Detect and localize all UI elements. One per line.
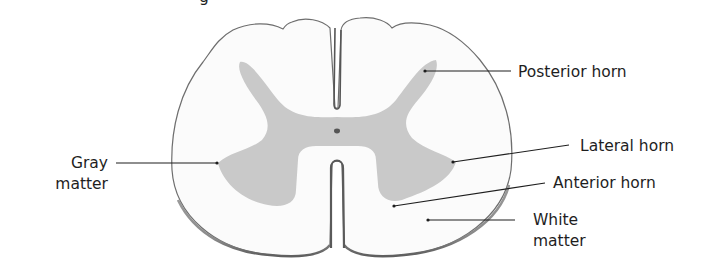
central-canal xyxy=(334,129,340,134)
white-matter-label-line1: White xyxy=(533,211,578,229)
spinal-cord-cross-section-diagram: g Posterior horn Gray matter Lateral hor… xyxy=(0,0,705,277)
lateral-horn-label: Lateral horn xyxy=(580,137,674,155)
title-fragment: g xyxy=(199,0,209,6)
white-matter-label-line2: matter xyxy=(533,232,586,250)
gray-matter-label-line1: Gray xyxy=(71,154,108,172)
anterior-median-fissure xyxy=(331,161,344,249)
posterior-horn-label: Posterior horn xyxy=(518,63,627,81)
posterior-median-sulcus xyxy=(334,28,341,109)
gray-matter-label-line2: matter xyxy=(55,175,108,193)
anterior-horn-label: Anterior horn xyxy=(553,174,656,192)
